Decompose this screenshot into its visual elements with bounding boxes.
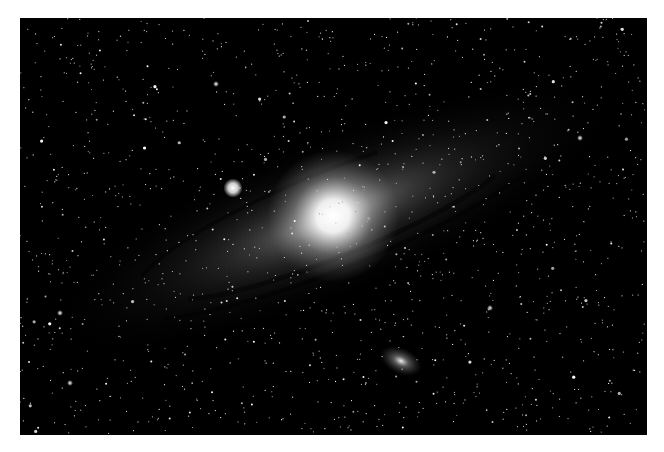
andromeda-galaxy-photo: Andromeda Galaxy (M31) with satellite ga… [20, 18, 647, 435]
star-field-canvas [20, 18, 647, 435]
